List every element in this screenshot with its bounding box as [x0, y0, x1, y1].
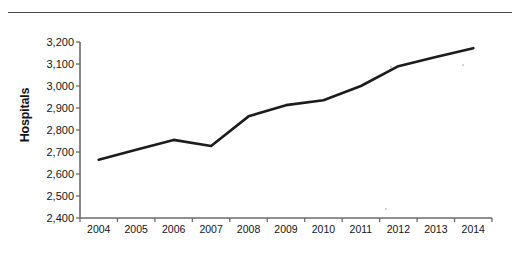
x-axis-tick-label: 2010 [305, 224, 342, 240]
x-axis-tick-label: 2009 [267, 224, 304, 240]
x-axis-group [80, 218, 492, 222]
scan-speck [462, 64, 464, 66]
x-axis-tick-label: 2012 [380, 224, 417, 240]
x-axis-tick-label: 2005 [117, 224, 154, 240]
x-axis-tick-label: 2014 [455, 224, 492, 240]
x-axis-tick-label: 2006 [155, 224, 192, 240]
scan-speck [385, 208, 387, 210]
plot-area [0, 0, 521, 261]
x-axis-tick-label: 2011 [342, 224, 379, 240]
x-axis-tick-label: 2004 [80, 224, 117, 240]
data-series-line [99, 48, 474, 160]
x-axis-tick-label: 2013 [417, 224, 454, 240]
y-axis-group [76, 42, 80, 218]
chart-figure: Hospitals 3,2003,1003,0002,9002,8002,700… [0, 0, 521, 261]
x-axis-tick-labels: 2004200520062007200820092010201120122013… [80, 224, 492, 240]
x-axis-tick-label: 2007 [192, 224, 229, 240]
x-axis-tick-label: 2008 [230, 224, 267, 240]
line-chart-svg [0, 0, 521, 261]
scan-speck [390, 66, 392, 68]
